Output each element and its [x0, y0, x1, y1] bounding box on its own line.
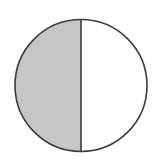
shaded-half-left — [15, 20, 81, 152]
fraction-diagram: 1/2 — [0, 0, 158, 161]
unshaded-half-right — [81, 20, 147, 152]
circle-figure — [0, 0, 158, 161]
